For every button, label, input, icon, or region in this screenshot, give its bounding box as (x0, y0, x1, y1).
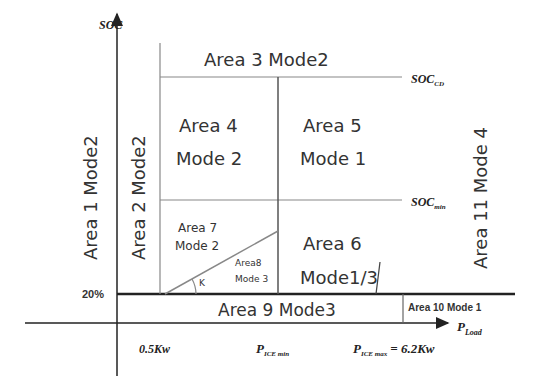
area-5-line1: Area 5 (303, 115, 362, 136)
tick-pice-min: PICE min (256, 341, 289, 358)
area-5-line2: Mode 1 (300, 148, 366, 169)
area-2-label: Area 2 Mode2 (128, 135, 149, 260)
area-6-line1: Area 6 (303, 233, 362, 254)
k-angle-arc (192, 279, 196, 294)
area-7-line1: Area 7 (178, 221, 217, 235)
y-axis-label: SOC (99, 18, 123, 32)
soc-mode-diagram: SOC PLoad 20% 0.5Kw PICE min PICE max= 6… (0, 0, 535, 392)
tick-05kw: 0.5Kw (139, 342, 171, 356)
area-4-line2: Mode 2 (176, 148, 242, 169)
soc-cd-label: SOCCD (411, 72, 444, 88)
area-8-line2: Mode 3 (235, 274, 268, 284)
area-1-label: Area 1 Mode2 (80, 135, 101, 260)
area-8-line1: Area8 (235, 258, 262, 268)
angle-k-label: K (199, 278, 206, 288)
soc-min-label: SOCmin (411, 195, 446, 211)
x-axis-label: PLoad (457, 319, 483, 337)
tick-pice-max: PICE max= 6.2Kw (353, 341, 435, 358)
area-11-label: Area 11 Mode 4 (470, 127, 491, 269)
area-10-label: Area 10 Mode 1 (408, 302, 482, 313)
area-6-line2: Mode1/3 (300, 267, 378, 288)
area-9-label: Area 9 Mode3 (218, 300, 336, 320)
area-4-line1: Area 4 (179, 115, 238, 136)
area-7-line2: Mode 2 (175, 239, 219, 253)
tick-20-percent: 20% (82, 288, 104, 300)
area-3-label: Area 3 Mode2 (204, 49, 329, 70)
